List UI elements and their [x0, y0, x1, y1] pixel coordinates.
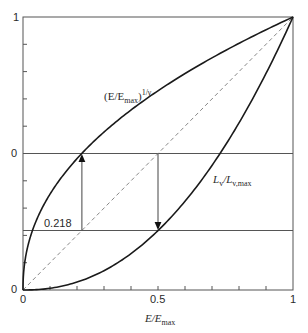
upper-curve-label: (E/Emax)1/γ [104, 88, 152, 105]
lower-curve-label: Lv/Lv,max [212, 173, 252, 188]
x-label-right: 1 [290, 293, 296, 305]
value-label-0218: 0.218 [44, 217, 72, 229]
chart-svg: 1 0 0 0 0.5 1 0.218 E/Emax (E/Emax)1/γ L… [0, 0, 308, 333]
x-label-mid: 0.5 [150, 293, 165, 305]
chart-root: 1 0 0 0 0.5 1 0.218 E/Emax (E/Emax)1/γ L… [0, 0, 308, 333]
x-axis-title: E/Emax [144, 312, 175, 327]
y-label-mid: 0 [11, 147, 17, 159]
x-ticks [50, 286, 266, 290]
y-label-top: 1 [13, 11, 19, 23]
y-label-bottom: 0 [11, 283, 17, 295]
x-label-left: 0 [20, 293, 26, 305]
